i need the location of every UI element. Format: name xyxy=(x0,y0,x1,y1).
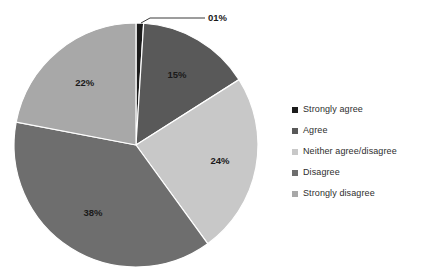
legend-swatch-strongly-agree xyxy=(292,107,298,113)
pie-data-label-strongly-agree: 01% xyxy=(208,12,228,23)
pie-data-label-agree: 15% xyxy=(167,69,187,80)
leader-lines-group xyxy=(141,18,205,23)
legend-label-strongly-disagree: Strongly disagree xyxy=(303,183,375,204)
legend-item-neither-agree-disagree[interactable]: Neither agree/disagree xyxy=(292,141,428,162)
legend-label-disagree: Disagree xyxy=(303,162,340,183)
pie-data-label-neither-agree-disagree: 24% xyxy=(210,155,230,166)
legend-label-strongly-agree: Strongly agree xyxy=(303,99,363,120)
legend-swatch-strongly-disagree xyxy=(292,191,298,197)
legend-item-strongly-agree[interactable]: Strongly agree xyxy=(292,99,428,120)
pie-plot-area: 01%15%24%38%22% xyxy=(0,0,276,276)
legend-label-neither-agree-disagree: Neither agree/disagree xyxy=(303,141,397,162)
legend-swatch-neither-agree-disagree xyxy=(292,149,298,155)
pie-chart-figure: 01%15%24%38%22% Strongly agree Agree Nei… xyxy=(0,0,429,276)
legend-label-agree: Agree xyxy=(303,120,328,141)
legend-item-disagree[interactable]: Disagree xyxy=(292,162,428,183)
pie-slices-group xyxy=(14,23,258,267)
legend-swatch-disagree xyxy=(292,170,298,176)
pie-svg: 01%15%24%38%22% xyxy=(0,0,276,276)
pie-data-label-disagree: 38% xyxy=(83,207,103,218)
chart-legend: Strongly agree Agree Neither agree/disag… xyxy=(292,99,428,204)
pie-data-label-strongly-disagree: 22% xyxy=(75,77,95,88)
legend-item-strongly-disagree[interactable]: Strongly disagree xyxy=(292,183,428,204)
legend-item-agree[interactable]: Agree xyxy=(292,120,428,141)
legend-swatch-agree xyxy=(292,128,298,134)
leader-line-strongly-agree xyxy=(141,18,205,23)
